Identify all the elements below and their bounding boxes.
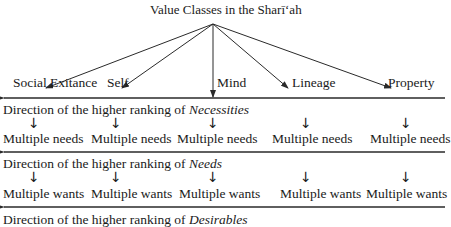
item-multiple-wants: Multiple wants <box>179 187 260 201</box>
item-multiple-needs: Multiple needs <box>177 132 258 146</box>
item-multiple-needs: Multiple needs <box>91 132 172 146</box>
down-arrow-icon: ↓ <box>28 170 40 184</box>
category-mind: Mind <box>217 76 246 90</box>
down-arrow-icon: ↓ <box>400 116 412 130</box>
category-property: Property <box>388 76 435 90</box>
down-arrow-icon: ↓ <box>300 170 312 184</box>
item-multiple-wants: Multiple wants <box>3 187 84 201</box>
item-multiple-wants: Multiple wants <box>280 187 361 201</box>
down-arrow-icon: ↓ <box>28 116 40 130</box>
down-arrow-icon: ↓ <box>110 116 122 130</box>
item-multiple-wants: Multiple wants <box>366 187 447 201</box>
direction-term: Desirables <box>189 212 248 227</box>
direction-label-desirables: Direction of the higher ranking of Desir… <box>3 213 247 227</box>
item-multiple-needs: Multiple needs <box>370 132 451 146</box>
direction-term: Necessities <box>189 102 249 117</box>
down-arrow-icon: ↓ <box>400 170 412 184</box>
item-multiple-needs: Multiple needs <box>272 132 353 146</box>
item-multiple-wants: Multiple wants <box>91 187 172 201</box>
down-arrow-icon: ↓ <box>207 170 219 184</box>
category-social-exitance: Social Exitance <box>13 76 97 90</box>
down-arrow-icon: ↓ <box>300 116 312 130</box>
category-self: Self <box>107 76 129 90</box>
diagram-title: Value Classes in the Sharī‘ah <box>150 3 302 17</box>
branch-self <box>122 24 213 88</box>
down-arrow-icon: ↓ <box>110 170 122 184</box>
down-arrow-icon: ↓ <box>207 116 219 130</box>
direction-prefix: Direction of the higher ranking of <box>3 212 189 227</box>
item-multiple-needs: Multiple needs <box>3 132 84 146</box>
category-lineage: Lineage <box>292 76 335 90</box>
